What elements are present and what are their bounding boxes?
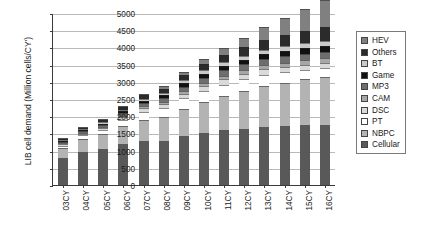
y-tick-label: 5000	[95, 10, 135, 19]
legend-swatch-icon	[361, 37, 368, 44]
bar-segment-nbpc	[300, 79, 310, 125]
legend-swatch-icon	[361, 60, 368, 67]
bar-segment-others	[320, 27, 330, 41]
x-label-slot: 09CY	[173, 188, 193, 240]
legend-item-cellular[interactable]: Cellular	[361, 140, 400, 149]
stacked-bar[interactable]	[280, 18, 290, 185]
legend-label: Cellular	[372, 140, 400, 149]
bar-slot	[194, 14, 214, 185]
x-tick-label: 07CY	[143, 190, 152, 210]
chart-legend: HEVOthersBTGameMP3CAMDSCPTNBPCCellular	[356, 31, 406, 154]
legend-item-others[interactable]: Others	[361, 48, 400, 57]
bar-segment-cellular	[179, 136, 189, 185]
legend-swatch-icon	[361, 118, 368, 125]
legend-label: BT	[372, 59, 382, 68]
x-label-slot: 16CY	[315, 188, 335, 240]
stacked-bar[interactable]	[58, 138, 68, 185]
x-label-slot: 14CY	[274, 188, 294, 240]
y-tick-label: 2500	[95, 96, 135, 105]
y-axis-title: LIB cell demand (Million cells/CY')	[23, 11, 33, 191]
bar-slot	[174, 14, 194, 185]
bar-segment-cellular	[259, 127, 269, 185]
bar-slot	[214, 14, 234, 185]
stacked-bar[interactable]	[259, 27, 269, 185]
bar-segment-pt	[259, 75, 269, 86]
bar-slot	[254, 14, 274, 185]
stacked-bar[interactable]	[159, 86, 169, 185]
legend-item-hev[interactable]: HEV	[361, 36, 400, 45]
bar-segment-cellular	[199, 133, 209, 185]
y-tick-label: 3500	[95, 61, 135, 70]
bar-segment-others	[239, 47, 249, 55]
x-tick-label: 04CY	[82, 190, 91, 210]
legend-label: PT	[372, 117, 382, 126]
x-label-slot: 10CY	[194, 188, 214, 240]
bar-segment-cellular	[139, 141, 149, 185]
bar-segment-pt	[280, 72, 290, 82]
x-label-slot: 12CY	[234, 188, 254, 240]
bar-segment-cellular	[58, 158, 68, 185]
x-label-slot: 03CY	[52, 188, 72, 240]
bar-segment-nbpc	[179, 109, 189, 137]
legend-label: Others	[372, 48, 397, 57]
legend-label: CAM	[372, 94, 390, 103]
x-tick-label: 15CY	[305, 190, 314, 210]
bar-slot	[53, 14, 73, 185]
x-label-slot: 08CY	[153, 188, 173, 240]
stacked-bar[interactable]	[300, 9, 310, 185]
stacked-bar[interactable]	[78, 127, 88, 185]
stacked-bar[interactable]	[219, 48, 229, 185]
bar-segment-nbpc	[320, 77, 330, 125]
y-tick-label: 1500	[95, 130, 135, 139]
bar-segment-pt	[139, 112, 149, 120]
bar-segment-others	[280, 35, 290, 46]
bar-segment-pt	[219, 85, 229, 97]
legend-item-mp3[interactable]: MP3	[361, 82, 400, 91]
bar-segment-others	[300, 31, 310, 43]
legend-item-cam[interactable]: CAM	[361, 94, 400, 103]
x-tick-label: 10CY	[204, 190, 213, 210]
stacked-bar[interactable]	[239, 38, 249, 185]
x-tick-label: 03CY	[62, 190, 71, 210]
legend-item-pt[interactable]: PT	[361, 117, 400, 126]
bar-segment-cellular	[159, 141, 169, 185]
legend-item-game[interactable]: Game	[361, 71, 400, 80]
bar-segment-cellular	[300, 125, 310, 185]
bar-segment-hev	[280, 18, 290, 35]
stacked-bar-chart: LIB cell demand (Million cells/CY') 0500…	[0, 0, 424, 244]
legend-swatch-icon	[361, 49, 368, 56]
bar-segment-pt	[239, 79, 249, 91]
stacked-bar[interactable]	[179, 72, 189, 185]
bar-slot	[134, 14, 154, 185]
legend-item-dsc[interactable]: DSC	[361, 106, 400, 115]
stacked-bar[interactable]	[199, 59, 209, 185]
bar-segment-nbpc	[239, 91, 249, 128]
x-tick-label: 11CY	[224, 190, 233, 210]
bar-segment-nbpc	[199, 102, 209, 133]
y-tick-label: 1000	[95, 147, 135, 156]
stacked-bar[interactable]	[320, 0, 330, 185]
legend-swatch-icon	[361, 107, 368, 114]
y-tick-label: 2000	[95, 113, 135, 122]
stacked-bar[interactable]	[139, 94, 149, 185]
bar-segment-cellular	[239, 129, 249, 185]
legend-label: NBPC	[372, 129, 395, 138]
bar-segment-pt	[199, 91, 209, 102]
legend-label: HEV	[372, 36, 389, 45]
bar-segment-others	[219, 55, 229, 62]
bar-slot	[295, 14, 315, 185]
legend-item-bt[interactable]: BT	[361, 59, 400, 68]
x-label-slot: 13CY	[254, 188, 274, 240]
x-tick-label: 09CY	[183, 190, 192, 210]
x-tick-label: 12CY	[244, 190, 253, 210]
bar-segment-nbpc	[78, 139, 88, 152]
y-tick-label: 3000	[95, 78, 135, 87]
bar-segment-hev	[259, 27, 269, 40]
x-label-slot: 05CY	[92, 188, 112, 240]
legend-label: Game	[372, 71, 394, 80]
x-label-slot: 04CY	[72, 188, 92, 240]
legend-label: MP3	[372, 82, 389, 91]
bar-segment-cellular	[320, 125, 330, 185]
bar-segment-nbpc	[139, 120, 149, 141]
legend-item-nbpc[interactable]: NBPC	[361, 129, 400, 138]
